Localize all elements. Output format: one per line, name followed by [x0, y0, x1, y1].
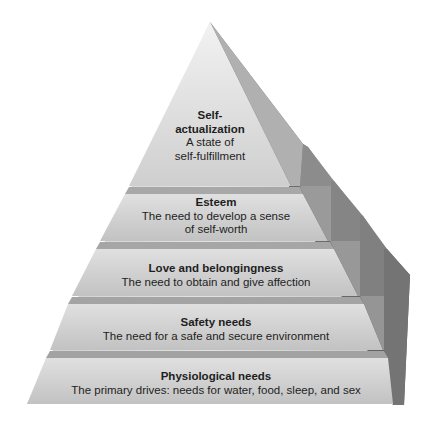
tier-description: The need to develop a sense — [0, 210, 432, 224]
tier-title: Love and belongingness — [0, 262, 432, 276]
tier-title: Self- — [150, 109, 270, 123]
label-safety-needs: Safety needs The need for a safe and sec… — [0, 316, 432, 343]
tier-description: The primary drives: needs for water, foo… — [0, 384, 432, 398]
tier-description-line2: self-fulfillment — [150, 150, 270, 164]
tier-title-line2: actualization — [150, 123, 270, 137]
pyramid-diagram: Self- actualization A state of self-fulf… — [0, 0, 432, 427]
band-2 — [96, 242, 334, 249]
band-3 — [68, 297, 364, 304]
band-4 — [46, 351, 388, 358]
tier-description: The need to obtain and give affection — [0, 276, 432, 290]
tier-description: The need for a safe and secure environme… — [0, 330, 432, 344]
label-esteem: Esteem The need to develop a sense of se… — [0, 196, 432, 237]
band-1 — [125, 187, 303, 194]
label-physiological-needs: Physiological needs The primary drives: … — [0, 370, 432, 397]
side-step-1 — [300, 144, 334, 186]
tier-title: Physiological needs — [0, 370, 432, 384]
label-self-actualization: Self- actualization A state of self-fulf… — [150, 109, 270, 163]
tier-title: Esteem — [0, 196, 432, 210]
tier-title: Safety needs — [0, 316, 432, 330]
label-love-belongingness: Love and belongingness The need to obtai… — [0, 262, 432, 289]
tier-description: A state of — [150, 136, 270, 150]
tier-description-line2: of self-worth — [0, 223, 432, 237]
